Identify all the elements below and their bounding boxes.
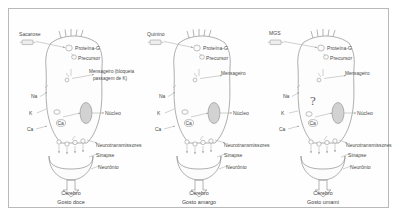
neuron-label: Neurônio (226, 164, 247, 170)
precursor-label: Precursor (206, 55, 228, 61)
protein-g-label: Proteína-G (75, 45, 100, 51)
ca-inner-label: Ca (58, 120, 65, 126)
organelle-icon (54, 110, 60, 115)
messenger-label-line1: Mensageiro (221, 71, 246, 76)
panel-caption: Gosto umami (307, 199, 339, 205)
panel-umami-taste: MGS Proteína-G Precursor Mensageiro ? Na… (261, 9, 394, 207)
g-protein-icon (318, 45, 325, 51)
panel-caption: Gosto doce (57, 199, 85, 205)
precursor-icon (324, 55, 329, 59)
k-label: K (281, 110, 285, 116)
organelle-icon (182, 110, 188, 115)
ca-outer-label: Ca (155, 126, 162, 132)
brain-label: Cérebro (61, 190, 80, 196)
stimulus-label: MGS (269, 30, 281, 36)
messenger-label-line1: Mensageiro (345, 71, 370, 76)
precursor-label: Precursor (330, 55, 352, 61)
synapse-label: Sinapse (96, 152, 115, 158)
nucleus-icon (208, 103, 220, 124)
na-label: Na (159, 93, 166, 99)
na-label: Na (283, 93, 290, 99)
brain-label: Cérebro (313, 190, 332, 196)
panel-caption: Gosto amargo (182, 199, 216, 205)
neuron-label: Neurônio (98, 164, 119, 170)
stimulus-label: Sacarose (19, 31, 41, 37)
synapse-label: Sinapse (224, 152, 243, 158)
ca-outer-label: Ca (27, 126, 34, 132)
nucleus-label: Núcleo (105, 110, 121, 116)
messenger-label-line1: Mensageiro (bloqueia (89, 69, 134, 74)
precursor-icon (72, 55, 77, 59)
panel-bitter-taste: Quinino Proteína-G Precursor Mensageiro … (137, 9, 270, 207)
messenger-icon (317, 78, 321, 82)
g-protein-icon (66, 45, 73, 51)
g-protein-icon (194, 45, 201, 51)
synapse-label: Sinapse (348, 152, 367, 158)
organelle-icon (306, 112, 312, 117)
sucrose-molecule-icon (22, 40, 33, 45)
unknown-mechanism-label: ? (310, 93, 316, 108)
neurotransmitters-label: Neurotransmissores (346, 142, 392, 148)
k-label: K (157, 110, 161, 116)
protein-g-label: Proteína-G (327, 45, 352, 51)
messenger-icon (65, 78, 69, 82)
ca-inner-label: Ca (310, 120, 317, 126)
nucleus-icon (332, 103, 344, 124)
k-label: K (29, 110, 33, 116)
panel-sweet-illustration: Sacarose Proteína-G Precursor Mensageiro… (9, 9, 142, 207)
precursor-label: Precursor (78, 55, 100, 61)
quinine-molecule-icon (150, 40, 161, 45)
na-label: Na (31, 93, 38, 99)
stimulus-label: Quinino (147, 31, 165, 37)
messenger-label-line2: passagem de K) (93, 76, 128, 81)
nucleus-label: Núcleo (357, 110, 373, 116)
panel-sweet-taste: Sacarose Proteína-G Precursor Mensageiro… (9, 9, 142, 207)
messenger-icon (193, 78, 197, 82)
brain-label: Cérebro (189, 190, 208, 196)
nucleus-icon (80, 103, 92, 124)
neurotransmitters-label: Neurotransmissores (96, 142, 142, 148)
panel-bitter-illustration: Quinino Proteína-G Precursor Mensageiro … (137, 9, 270, 207)
neuron-label: Neurônio (350, 164, 371, 170)
ca-inner-label: Ca (186, 120, 193, 126)
msg-molecule-icon (270, 40, 281, 45)
figure-frame: Sacarose Proteína-G Precursor Mensageiro… (8, 8, 389, 208)
panel-umami-illustration: MGS Proteína-G Precursor Mensageiro ? Na… (261, 9, 394, 207)
precursor-icon (200, 55, 205, 59)
nucleus-label: Núcleo (233, 110, 249, 116)
ca-outer-label: Ca (279, 126, 286, 132)
protein-g-label: Proteína-G (203, 45, 228, 51)
